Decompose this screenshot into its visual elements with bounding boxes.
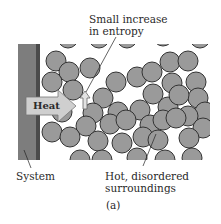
surroundings-label-line2: surroundings (105, 182, 176, 194)
heat-label: Heat (33, 100, 60, 112)
entropy-label-line2: in entropy (89, 25, 144, 37)
surroundings-label-line1: Hot, disordered (105, 170, 189, 182)
entropy-label-line1: Small increase (89, 13, 168, 25)
panel-label: (a) (106, 199, 120, 211)
particles (42, 26, 215, 170)
system-label: System (16, 170, 55, 182)
